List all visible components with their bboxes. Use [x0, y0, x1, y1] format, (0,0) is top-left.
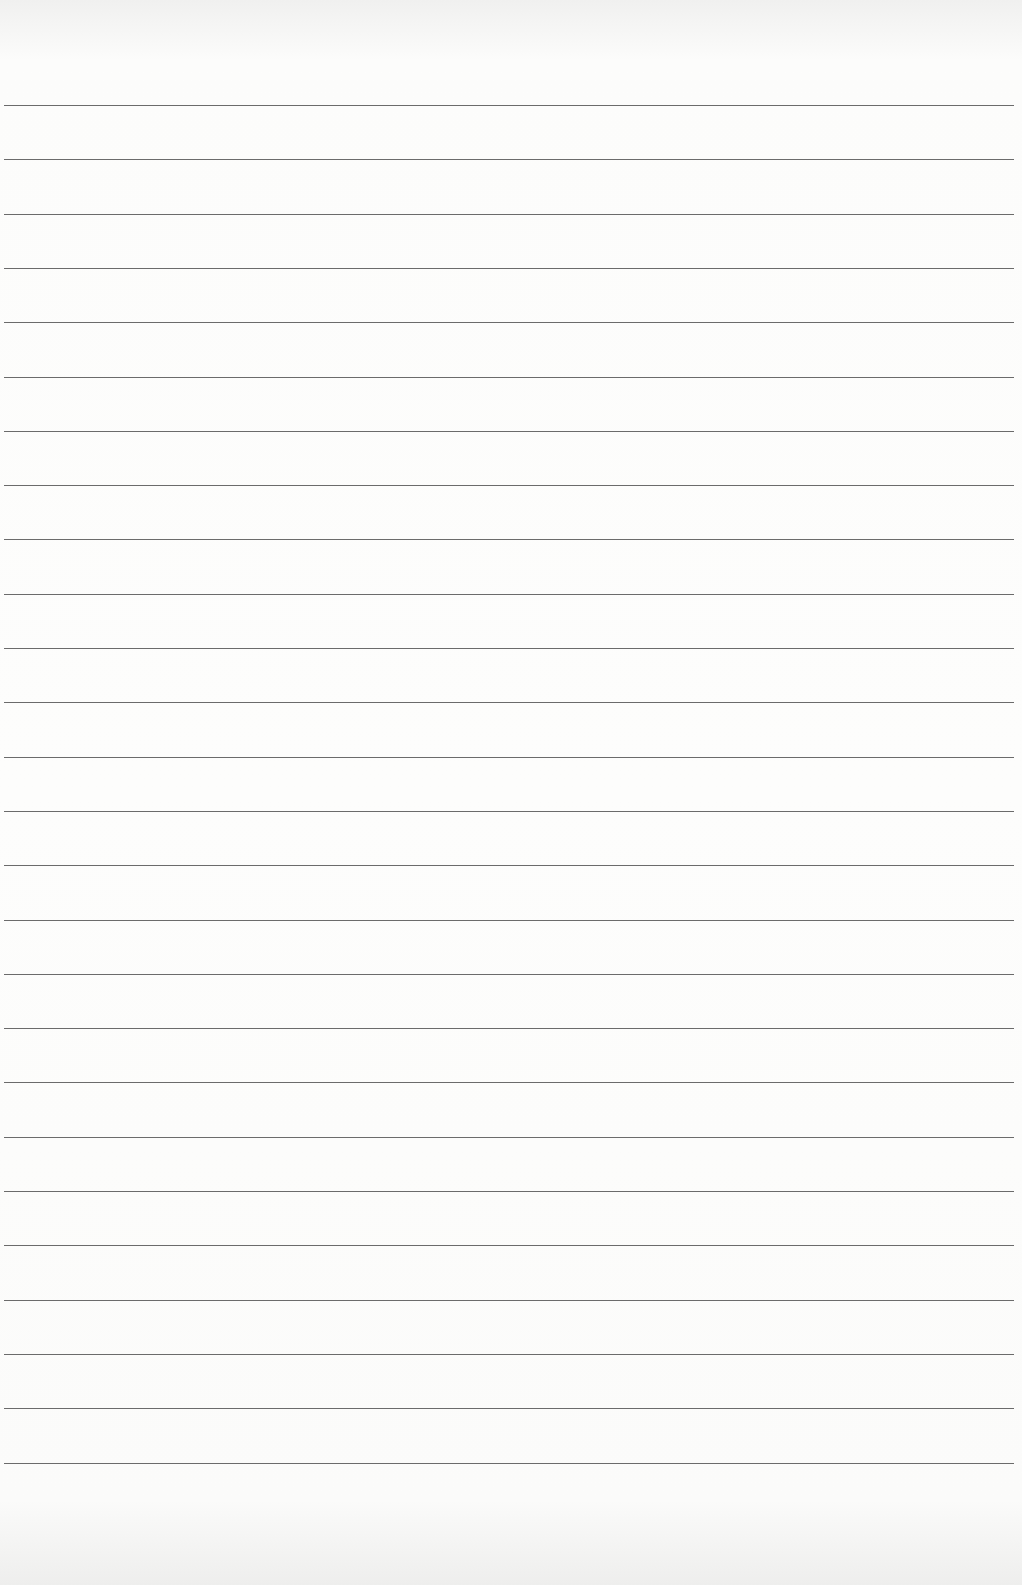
lined-paper-sheet: [0, 0, 1022, 1585]
ruled-line: [4, 377, 1014, 378]
ruled-line: [4, 322, 1014, 323]
ruled-line: [4, 1137, 1014, 1138]
ruled-line: [4, 105, 1014, 106]
ruled-line: [4, 1028, 1014, 1029]
ruled-line: [4, 594, 1014, 595]
ruled-line: [4, 920, 1014, 921]
ruled-line: [4, 431, 1014, 432]
ruled-line: [4, 974, 1014, 975]
ruled-line: [4, 485, 1014, 486]
ruled-line: [4, 757, 1014, 758]
ruled-line: [4, 1463, 1014, 1464]
ruled-line: [4, 1300, 1014, 1301]
ruled-line: [4, 539, 1014, 540]
ruled-line: [4, 1354, 1014, 1355]
ruled-line: [4, 1082, 1014, 1083]
ruled-line: [4, 648, 1014, 649]
ruled-line: [4, 865, 1014, 866]
ruled-line: [4, 214, 1014, 215]
ruled-line: [4, 1245, 1014, 1246]
ruled-line: [4, 159, 1014, 160]
ruled-line: [4, 1408, 1014, 1409]
ruled-line: [4, 268, 1014, 269]
ruled-line: [4, 702, 1014, 703]
ruled-line: [4, 1191, 1014, 1192]
ruled-line: [4, 811, 1014, 812]
